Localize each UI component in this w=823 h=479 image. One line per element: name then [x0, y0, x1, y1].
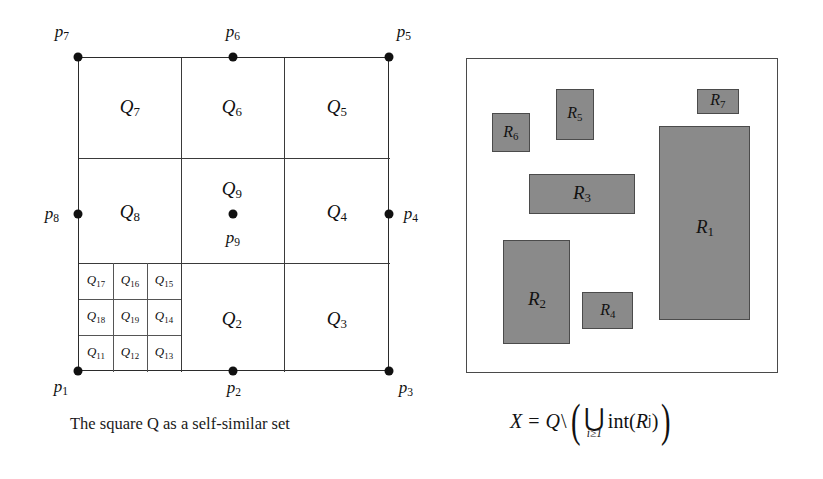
rect-label-R7: R7 [710, 92, 725, 110]
union-limit: i≥1 [587, 428, 602, 440]
rect-label-R2: R2 [528, 289, 546, 312]
cell-label-Q16: Q16 [121, 273, 139, 288]
cell-label-Q3: Q3 [327, 309, 347, 332]
formula-paren-close: ) [661, 404, 671, 437]
cell-label-Q18: Q18 [87, 309, 105, 324]
vertex-label-p8: p8 [45, 205, 59, 225]
vertex-label-p2: p2 [227, 379, 241, 399]
cell-label-Q15: Q15 [155, 273, 173, 288]
left-panel: Q7 Q6 Q5 Q8 Q9 Q4 Q2 Q3 [0, 0, 450, 479]
vertex-p7 [74, 53, 83, 62]
gridline-vertical-2 [284, 58, 285, 372]
cell-label-Q2: Q2 [222, 309, 242, 332]
vertex-p8 [74, 210, 83, 219]
vertex-label-p4: p4 [404, 205, 418, 225]
left-panel-caption: The square Q as a self-similar set [70, 414, 290, 434]
union-glyph: ⋃ [584, 408, 605, 428]
formula-lhs: X [510, 411, 522, 431]
cell-label-Q4: Q4 [327, 202, 347, 225]
cell-label-Q8: Q8 [120, 202, 140, 225]
vertex-label-p6: p6 [226, 23, 240, 43]
subgridline-horizontal-1 [79, 299, 181, 300]
gridline-vertical-1 [181, 58, 182, 372]
formula-interior-close: ) [652, 411, 659, 431]
cell-label-Q17: Q17 [87, 273, 105, 288]
cell-label-Q14: Q14 [155, 309, 173, 324]
formula-interior-op: int [608, 411, 629, 431]
formula-setminus: \ [561, 411, 567, 431]
formula-set-Q: Q [546, 411, 560, 431]
right-panel-formula: X = Q \ ( ⋃ i≥1 int ( R j ) ) [510, 404, 674, 437]
formula-big-union: ⋃ i≥1 [584, 408, 605, 439]
cell-label-Q12: Q12 [121, 345, 139, 360]
formula-paren-open: ( [570, 404, 580, 437]
vertex-p5 [385, 53, 394, 62]
rect-label-R5: R5 [567, 105, 582, 123]
rect-label-R3: R3 [573, 183, 591, 206]
figure-root: Q7 Q6 Q5 Q8 Q9 Q4 Q2 Q3 [0, 0, 823, 479]
formula-interior-open: ( [629, 411, 636, 431]
cell-label-Q9: Q9 [222, 179, 242, 202]
formula-interior-arg: R [636, 411, 648, 431]
vertex-p6 [229, 53, 238, 62]
cell-label-Q5: Q5 [327, 97, 347, 120]
vertex-label-p5: p5 [397, 23, 411, 43]
vertex-p3 [385, 367, 394, 376]
right-panel: R1 R2 R3 R4 R5 R6 R7 X = Q \ ( ⋃ i≥ [450, 0, 823, 479]
vertex-label-p3: p3 [399, 379, 413, 399]
subgridline-vertical-1 [113, 263, 114, 372]
gridline-horizontal-2 [79, 263, 390, 264]
vertex-p9 [229, 210, 238, 219]
vertex-p4 [385, 210, 394, 219]
vertex-label-p7: p7 [55, 23, 69, 43]
formula-equals: = [528, 411, 539, 431]
rect-label-R1: R1 [696, 217, 714, 240]
cell-label-Q19: Q19 [121, 309, 139, 324]
cell-label-Q6: Q6 [222, 97, 242, 120]
vertex-label-p1: p1 [54, 378, 68, 398]
vertex-p1 [74, 367, 83, 376]
cell-label-Q13: Q13 [155, 345, 173, 360]
vertex-label-p9: p9 [226, 229, 240, 249]
rect-label-R4: R4 [600, 302, 615, 320]
subgridline-vertical-2 [147, 263, 148, 372]
vertex-p2 [229, 367, 238, 376]
cell-label-Q7: Q7 [120, 97, 140, 120]
rect-label-R6: R6 [503, 124, 518, 142]
cell-label-Q11: Q11 [87, 345, 105, 360]
subgridline-horizontal-2 [79, 335, 181, 336]
gridline-horizontal-1 [79, 158, 390, 159]
